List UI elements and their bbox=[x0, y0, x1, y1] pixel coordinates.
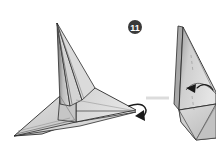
step-badge: 11 bbox=[128, 20, 142, 34]
origami-model-before bbox=[14, 23, 136, 136]
curved-fold-arrow-head bbox=[135, 110, 145, 121]
origami-step-diagram: 11 bbox=[0, 0, 216, 146]
origami-model-after bbox=[174, 26, 216, 140]
diagram-canvas: 11 bbox=[0, 0, 216, 146]
model-after-body bbox=[179, 27, 216, 110]
step-badge-label: 11 bbox=[130, 23, 140, 33]
